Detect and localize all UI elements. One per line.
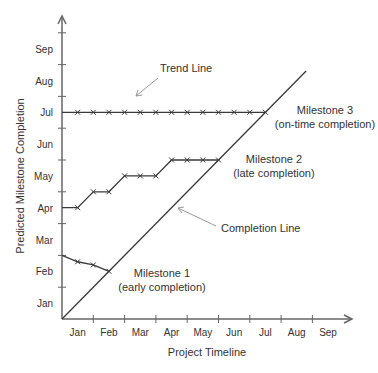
y-tick-label: Jun xyxy=(37,139,53,150)
y-tick-label: May xyxy=(34,171,53,182)
milestone-2-annotation: Milestone 2 (late completion) xyxy=(233,153,314,179)
x-tick-label: Jul xyxy=(259,327,272,338)
y-tick-label: Apr xyxy=(37,203,53,214)
trend-line-annotation: Trend Line xyxy=(136,62,212,96)
y-tick-label: Jan xyxy=(37,298,53,309)
x-marker-icon xyxy=(106,269,111,274)
y-tick-label: Aug xyxy=(35,76,53,87)
milestone-1-annotation: Milestone 1 (early completion) xyxy=(118,267,205,293)
milestone-2-title: Milestone 2 xyxy=(246,153,302,165)
x-axis-title: Project Timeline xyxy=(168,346,246,358)
x-tick-label: Feb xyxy=(100,327,118,338)
y-tick-label: Feb xyxy=(36,266,54,277)
series-line-1 xyxy=(62,255,109,271)
milestone-1-title: Milestone 1 xyxy=(134,267,190,279)
milestone-1-subtitle: (early completion) xyxy=(118,281,205,293)
y-tick-label: Sep xyxy=(35,44,53,55)
milestone-3-subtitle: (on-time completion) xyxy=(275,118,375,130)
x-tick-label: Mar xyxy=(132,327,150,338)
milestone-3-annotation: Milestone 3 (on-time completion) xyxy=(275,104,375,130)
x-tick-label: Jun xyxy=(226,327,242,338)
y-tick-label: Jul xyxy=(40,107,53,118)
x-tick-label: Apr xyxy=(164,327,180,338)
trend-line-arrow-icon xyxy=(136,78,158,96)
milestone-trend-chart: JanFebMarAprMayJunJulAugSepJanFebMarAprM… xyxy=(0,0,378,373)
x-tick-label: Jan xyxy=(70,327,86,338)
axis-tick-labels: JanFebMarAprMayJunJulAugSepJanFebMarAprM… xyxy=(34,44,337,338)
completion-line-label: Completion Line xyxy=(221,222,301,234)
completion-line-annotation: Completion Line xyxy=(178,207,301,234)
x-tick-label: Aug xyxy=(288,327,306,338)
trend-line-label: Trend Line xyxy=(160,62,212,74)
milestone-2-subtitle: (late completion) xyxy=(233,167,314,179)
milestone-3-title: Milestone 3 xyxy=(297,104,353,116)
y-tick-label: Mar xyxy=(36,235,54,246)
x-tick-label: Sep xyxy=(319,327,337,338)
x-tick-label: May xyxy=(193,327,212,338)
y-axis-title: Predicted Milestone Completion xyxy=(14,98,26,253)
completion-line-arrow-icon xyxy=(178,208,216,226)
